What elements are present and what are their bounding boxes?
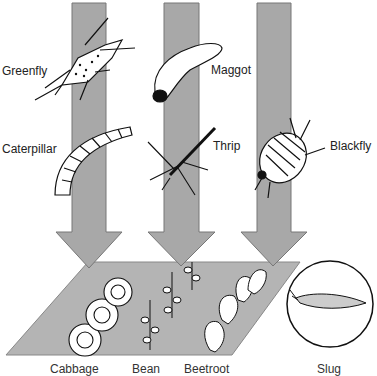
arrow-middle (148, 3, 215, 266)
slug-inset (287, 261, 373, 347)
label-slug: Slug (317, 362, 341, 376)
label-thrip: Thrip (213, 139, 240, 153)
arrow-right (241, 3, 307, 266)
label-bean: Bean (132, 362, 160, 376)
label-blackfly: Blackfly (330, 139, 371, 153)
label-cabbage: Cabbage (50, 362, 99, 376)
label-greenfly: Greenfly (2, 64, 47, 78)
label-beetroot: Beetroot (184, 362, 229, 376)
label-maggot: Maggot (211, 63, 251, 77)
label-caterpillar: Caterpillar (2, 142, 57, 156)
